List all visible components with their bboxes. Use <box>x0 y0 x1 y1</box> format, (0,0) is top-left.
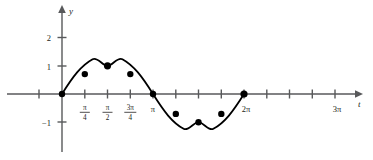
y-axis-arrow-icon <box>58 5 66 13</box>
x-tick-3pi4-numerator: 3π <box>127 104 135 112</box>
data-point <box>82 71 88 77</box>
x-tick-label-2pi: 2π <box>242 104 251 114</box>
x-axis-arrow-icon <box>355 90 363 98</box>
x-tick-pi4-denominator: 4 <box>83 114 87 122</box>
x-tick-label-3pi: 3π <box>333 104 342 114</box>
y-axis-tick-labels: 2 1 −1 <box>42 33 51 128</box>
chart-svg: 2 1 −1 π 4 π 2 3π 4 π 2π 3π y t <box>0 0 373 160</box>
sine-wave-figure: 2 1 −1 π 4 π 2 3π 4 π 2π 3π y t <box>0 0 373 160</box>
y-tick-label-minus-1: −1 <box>42 118 51 128</box>
x-axis-tick-label-pi-over-4: π 4 <box>80 104 90 122</box>
y-axis <box>58 5 66 152</box>
x-axis-tick-label-pi-over-2: π 2 <box>103 104 113 122</box>
x-tick-pi2-denominator: 2 <box>106 114 110 122</box>
data-point <box>127 71 133 77</box>
y-axis-name-label: y <box>68 6 73 16</box>
data-point <box>104 62 111 69</box>
x-axis-name-label: t <box>358 99 361 109</box>
y-tick-label-2: 2 <box>47 33 51 43</box>
y-tick-label-1: 1 <box>47 62 51 72</box>
x-tick-3pi4-denominator: 4 <box>129 114 133 122</box>
data-point <box>195 119 201 125</box>
x-axis-tick-label-3pi-over-4: 3π 4 <box>124 104 136 122</box>
data-point <box>240 90 247 97</box>
x-tick-label-pi: π <box>151 104 156 114</box>
data-point <box>150 91 156 97</box>
x-tick-pi2-numerator: π <box>106 104 110 112</box>
data-point <box>218 111 224 117</box>
data-point <box>59 91 65 97</box>
data-point <box>173 111 179 117</box>
x-tick-pi4-numerator: π <box>83 104 87 112</box>
